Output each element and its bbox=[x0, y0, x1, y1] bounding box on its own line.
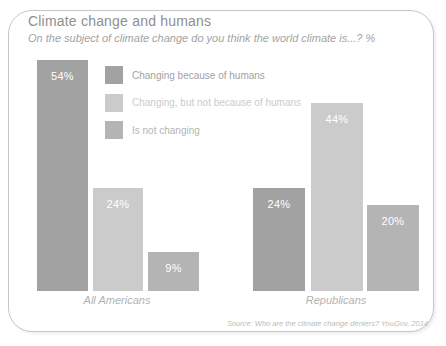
legend-item-1: Changing, but not because of humans bbox=[105, 94, 301, 112]
source-attribution: Source: Who are the climate change denie… bbox=[227, 319, 428, 328]
chart-canvas: Climate change and humans On the subject… bbox=[0, 0, 446, 346]
bar-group0-series1: 24% bbox=[93, 188, 143, 291]
category-label-0: All Americans bbox=[84, 294, 151, 306]
bar-value-label: 24% bbox=[268, 198, 291, 210]
legend-item-0: Changing because of humans bbox=[105, 66, 301, 84]
chart-title: Climate change and humans bbox=[28, 13, 211, 29]
category-label-1: Republicans bbox=[306, 294, 367, 306]
bar-value-label: 20% bbox=[382, 215, 405, 227]
bar-group0-series2: 9% bbox=[148, 252, 199, 291]
bar-group1-series1: 44% bbox=[311, 103, 363, 291]
legend-item-label: Changing because of humans bbox=[132, 70, 265, 81]
legend-swatch-icon bbox=[105, 121, 123, 139]
chart-legend: Changing because of humansChanging, but … bbox=[105, 66, 301, 149]
legend-item-label: Is not changing bbox=[132, 125, 200, 136]
bar-value-label: 44% bbox=[326, 113, 349, 125]
bar-group1-series0: 24% bbox=[253, 188, 305, 291]
legend-swatch-icon bbox=[105, 94, 123, 112]
legend-item-label: Changing, but not because of humans bbox=[132, 97, 301, 108]
bar-value-label: 9% bbox=[165, 262, 182, 274]
bar-value-label: 24% bbox=[107, 198, 130, 210]
chart-subtitle: On the subject of climate change do you … bbox=[28, 32, 375, 44]
legend-swatch-icon bbox=[105, 66, 123, 84]
bar-group0-series0: 54% bbox=[37, 60, 88, 291]
bar-group1-series2: 20% bbox=[367, 205, 419, 291]
bar-value-label: 54% bbox=[51, 70, 74, 82]
legend-item-2: Is not changing bbox=[105, 121, 301, 139]
